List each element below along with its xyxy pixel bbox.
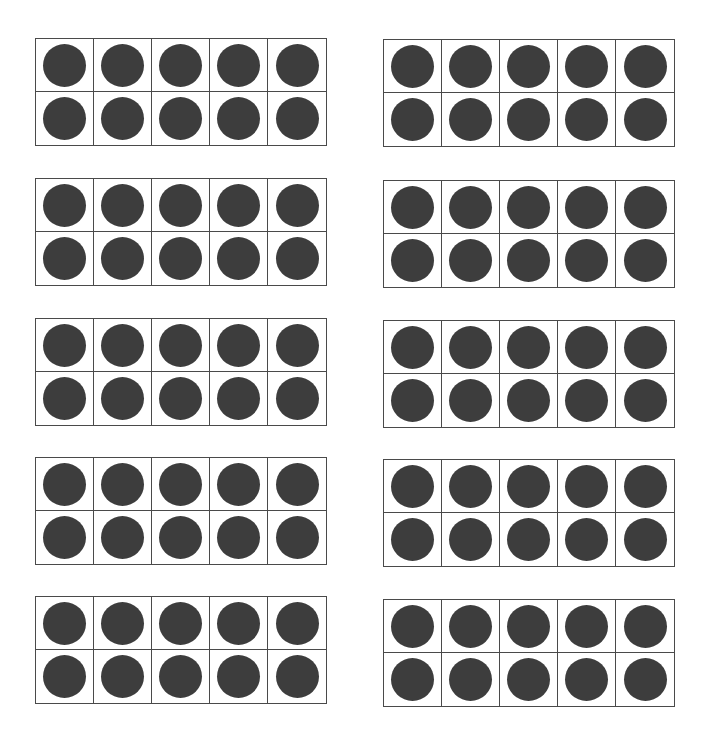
ten-frame-cell xyxy=(500,93,558,146)
ten-frame-cell xyxy=(268,511,326,564)
counter-dot-icon xyxy=(159,516,202,559)
counter-dot-icon xyxy=(507,45,550,88)
counter-dot-icon xyxy=(217,516,260,559)
counter-dot-icon xyxy=(101,377,144,420)
counter-dot-icon xyxy=(217,237,260,280)
counter-dot-icon xyxy=(43,184,86,227)
counter-dot-icon xyxy=(43,97,86,140)
counter-dot-icon xyxy=(507,186,550,229)
counter-dot-icon xyxy=(507,518,550,561)
ten-frame-cell xyxy=(36,39,94,92)
ten-frame-cell xyxy=(616,93,674,146)
counter-dot-icon xyxy=(217,463,260,506)
counter-dot-icon xyxy=(391,379,434,422)
counter-dot-icon xyxy=(565,518,608,561)
ten-frame-cell xyxy=(558,513,616,566)
ten-frame-cell xyxy=(94,179,152,232)
counter-dot-icon xyxy=(159,602,202,645)
counter-dot-icon xyxy=(43,44,86,87)
ten-frame-cell xyxy=(36,597,94,650)
ten-frame-cell xyxy=(500,181,558,234)
counter-dot-icon xyxy=(565,45,608,88)
ten-frame-cell xyxy=(210,232,268,285)
counter-dot-icon xyxy=(159,463,202,506)
ten-frame-cell xyxy=(36,179,94,232)
counter-dot-icon xyxy=(391,186,434,229)
ten-frame xyxy=(383,459,675,567)
ten-frame-cell xyxy=(558,181,616,234)
counter-dot-icon xyxy=(565,98,608,141)
counter-dot-icon xyxy=(101,97,144,140)
ten-frame-cell xyxy=(36,372,94,425)
counter-dot-icon xyxy=(101,516,144,559)
ten-frame-cell xyxy=(616,40,674,93)
ten-frame-cell xyxy=(442,653,500,706)
counter-dot-icon xyxy=(624,465,667,508)
ten-frame-cell xyxy=(268,92,326,145)
counter-dot-icon xyxy=(43,602,86,645)
ten-frame-cell xyxy=(152,511,210,564)
counter-dot-icon xyxy=(449,379,492,422)
counter-dot-icon xyxy=(43,463,86,506)
counter-dot-icon xyxy=(391,45,434,88)
ten-frame-cell xyxy=(384,321,442,374)
counter-dot-icon xyxy=(624,326,667,369)
counter-dot-icon xyxy=(391,239,434,282)
ten-frame-cell xyxy=(442,513,500,566)
ten-frame-cell xyxy=(268,650,326,703)
counter-dot-icon xyxy=(43,324,86,367)
counter-dot-icon xyxy=(565,658,608,701)
counter-dot-icon xyxy=(276,377,319,420)
ten-frame-cell xyxy=(210,39,268,92)
ten-frame-cell xyxy=(500,653,558,706)
counter-dot-icon xyxy=(276,44,319,87)
ten-frame-cell xyxy=(36,458,94,511)
counter-dot-icon xyxy=(391,605,434,648)
ten-frame-cell xyxy=(152,650,210,703)
counter-dot-icon xyxy=(624,605,667,648)
counter-dot-icon xyxy=(565,465,608,508)
ten-frame-cell xyxy=(94,39,152,92)
ten-frame xyxy=(35,457,327,565)
ten-frame-cell xyxy=(558,321,616,374)
ten-frame-cell xyxy=(210,597,268,650)
ten-frame xyxy=(383,180,675,288)
ten-frame-cell xyxy=(268,597,326,650)
ten-frame-cell xyxy=(500,600,558,653)
ten-frame-cell xyxy=(500,234,558,287)
ten-frame xyxy=(383,39,675,147)
counter-dot-icon xyxy=(624,45,667,88)
counter-dot-icon xyxy=(159,377,202,420)
ten-frame-cell xyxy=(210,92,268,145)
counter-dot-icon xyxy=(507,239,550,282)
ten-frame xyxy=(35,596,327,704)
ten-frame-cell xyxy=(558,93,616,146)
ten-frame-cell xyxy=(152,319,210,372)
ten-frame-cell xyxy=(500,460,558,513)
ten-frame-cell xyxy=(616,653,674,706)
counter-dot-icon xyxy=(276,97,319,140)
counter-dot-icon xyxy=(391,326,434,369)
ten-frame-cell xyxy=(384,653,442,706)
ten-frame-cell xyxy=(94,458,152,511)
ten-frame-cell xyxy=(384,600,442,653)
ten-frame-cell xyxy=(558,374,616,427)
counter-dot-icon xyxy=(276,463,319,506)
counter-dot-icon xyxy=(507,98,550,141)
counter-dot-icon xyxy=(507,465,550,508)
counter-dot-icon xyxy=(624,658,667,701)
counter-dot-icon xyxy=(101,237,144,280)
counter-dot-icon xyxy=(624,518,667,561)
counter-dot-icon xyxy=(449,465,492,508)
ten-frame-cell xyxy=(558,40,616,93)
ten-frame-cell xyxy=(384,460,442,513)
ten-frame-cell xyxy=(442,321,500,374)
ten-frame xyxy=(35,178,327,286)
counter-dot-icon xyxy=(624,98,667,141)
ten-frame-cell xyxy=(616,234,674,287)
counter-dot-icon xyxy=(159,237,202,280)
ten-frame-cell xyxy=(36,319,94,372)
ten-frame-cell xyxy=(36,650,94,703)
counter-dot-icon xyxy=(507,326,550,369)
counter-dot-icon xyxy=(276,655,319,698)
